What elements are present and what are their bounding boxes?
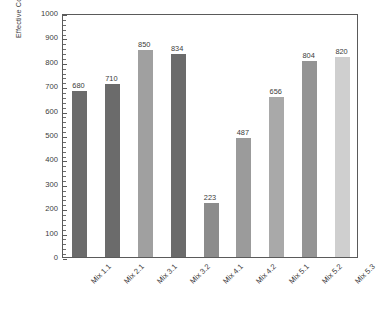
y-axis-minor-tick xyxy=(63,239,66,240)
y-axis-minor-tick xyxy=(63,171,66,172)
y-axis-minor-tick xyxy=(63,166,66,167)
bar xyxy=(302,61,317,257)
y-axis-minor-tick xyxy=(63,196,66,197)
y-axis-minor-tick xyxy=(63,49,66,50)
y-axis-minor-tick xyxy=(63,54,66,55)
x-axis-category-label: Mix 3.2 xyxy=(188,262,212,286)
bar xyxy=(105,84,120,257)
y-axis-tick-label: 200 xyxy=(24,205,58,213)
y-axis-minor-tick xyxy=(63,191,66,192)
y-axis-minor-tick xyxy=(63,69,66,70)
y-axis-major-tick xyxy=(63,161,67,162)
y-axis-minor-tick xyxy=(63,25,66,26)
bar xyxy=(269,97,284,257)
bar-value-label: 820 xyxy=(327,48,357,56)
y-axis-minor-tick xyxy=(63,176,66,177)
bar-value-label: 656 xyxy=(261,88,291,96)
y-axis-minor-tick xyxy=(63,200,66,201)
y-axis-major-tick xyxy=(63,259,67,260)
y-axis-major-tick xyxy=(63,235,67,236)
x-axis-category-label: Mix 4.2 xyxy=(254,262,278,286)
y-axis-minor-tick xyxy=(63,44,66,45)
x-axis-category-label: Mix 4.1 xyxy=(221,262,245,286)
bar-value-label: 487 xyxy=(228,129,258,137)
y-axis-minor-tick xyxy=(63,30,66,31)
bar-value-label: 834 xyxy=(162,45,192,53)
bar xyxy=(72,91,87,257)
y-axis-minor-tick xyxy=(63,215,66,216)
bar-value-label: 680 xyxy=(63,82,93,90)
y-axis-tick-label: 500 xyxy=(24,132,58,140)
y-axis-minor-tick xyxy=(63,93,66,94)
y-axis-tick-label: 600 xyxy=(24,108,58,116)
y-axis-tick-label: 100 xyxy=(24,230,58,238)
y-axis-minor-tick xyxy=(63,244,66,245)
y-axis-minor-tick xyxy=(63,108,66,109)
y-axis-minor-tick xyxy=(63,78,66,79)
bar-chart: Effective Cohesion c', (kPa) 01002003004… xyxy=(0,0,378,313)
x-axis-category-label: Mix 5.2 xyxy=(320,262,344,286)
x-axis-category-label: Mix 5.3 xyxy=(353,262,377,286)
bar-value-label: 850 xyxy=(129,41,159,49)
y-axis-tick-label: 400 xyxy=(24,156,58,164)
y-axis-minor-tick xyxy=(63,230,66,231)
y-axis-minor-tick xyxy=(63,220,66,221)
y-axis-minor-tick xyxy=(63,249,66,250)
bar xyxy=(335,57,350,257)
y-axis-minor-tick xyxy=(63,181,66,182)
y-axis-minor-tick xyxy=(63,59,66,60)
y-axis-minor-tick xyxy=(63,117,66,118)
y-axis-minor-tick xyxy=(63,20,66,21)
y-axis-minor-tick xyxy=(63,103,66,104)
y-axis-minor-tick xyxy=(63,157,66,158)
y-axis-minor-tick xyxy=(63,132,66,133)
y-axis-minor-tick xyxy=(63,122,66,123)
y-axis-major-tick xyxy=(63,186,67,187)
y-axis-minor-tick xyxy=(63,205,66,206)
y-axis-tick-label: 300 xyxy=(24,181,58,189)
y-axis-major-tick xyxy=(63,113,67,114)
y-axis-major-tick xyxy=(63,137,67,138)
y-axis-minor-tick xyxy=(63,74,66,75)
y-axis-major-tick xyxy=(63,15,67,16)
bar-value-label: 804 xyxy=(294,52,324,60)
y-axis-minor-tick xyxy=(63,152,66,153)
y-axis-minor-tick xyxy=(63,127,66,128)
bar xyxy=(171,54,186,257)
bar xyxy=(236,138,251,257)
y-axis-minor-tick xyxy=(63,225,66,226)
y-axis-minor-tick xyxy=(63,35,66,36)
y-axis-tick-label: 0 xyxy=(24,254,58,262)
y-axis-tick-label: 1000 xyxy=(24,10,58,18)
y-axis-major-tick xyxy=(63,64,67,65)
bar xyxy=(204,203,219,257)
y-axis-tick-label: 700 xyxy=(24,83,58,91)
y-axis-major-tick xyxy=(63,210,67,211)
y-axis-minor-tick xyxy=(63,147,66,148)
bar-value-label: 710 xyxy=(96,75,126,83)
y-axis-minor-tick xyxy=(63,254,66,255)
y-axis-tick-label: 800 xyxy=(24,59,58,67)
x-axis-category-label: Mix 2.1 xyxy=(122,262,146,286)
y-axis-minor-tick xyxy=(63,142,66,143)
y-axis-major-tick xyxy=(63,39,67,40)
bar-value-label: 223 xyxy=(195,194,225,202)
x-axis-category-label: Mix 1.1 xyxy=(90,262,114,286)
x-axis-category-label: Mix 5.1 xyxy=(287,262,311,286)
y-axis-minor-tick xyxy=(63,98,66,99)
y-axis-tick-label: 900 xyxy=(24,34,58,42)
bar xyxy=(138,50,153,257)
x-axis-category-label: Mix 3.1 xyxy=(155,262,179,286)
